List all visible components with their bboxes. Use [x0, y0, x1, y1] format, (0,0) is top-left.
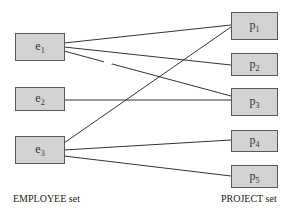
node-label: e2 [35, 91, 44, 107]
edge-e1-p1 [64, 25, 231, 43]
node-label: p1 [250, 18, 260, 34]
project-node-p4: p4 [231, 130, 278, 152]
project-set-label: PROJECT set [221, 193, 277, 204]
node-label: e3 [35, 142, 44, 158]
node-label: e1 [35, 39, 44, 55]
project-node-p2: p2 [231, 53, 278, 76]
project-node-p5: p5 [231, 165, 278, 188]
employee-node-e1: e1 [15, 33, 65, 61]
employee-set-label: EMPLOYEE set [13, 193, 80, 204]
edge-e3-p4 [64, 140, 231, 150]
employee-node-e3: e3 [15, 136, 65, 164]
node-label: p2 [250, 57, 260, 73]
node-label: p3 [250, 94, 260, 110]
node-label: p4 [250, 133, 260, 149]
node-label: p5 [250, 169, 260, 185]
edge-e3-p5 [64, 156, 231, 176]
project-node-p1: p1 [231, 12, 278, 40]
edge-e1-p2 [64, 47, 231, 65]
employee-node-e2: e2 [15, 87, 65, 111]
project-node-p3: p3 [231, 88, 278, 116]
edge-e3-p1 [64, 27, 231, 143]
edge-e1-p3 [64, 51, 231, 96]
line-gap [104, 58, 112, 64]
